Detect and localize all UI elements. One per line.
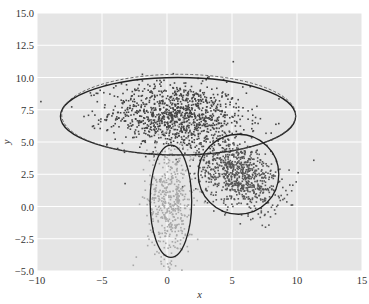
x-tick-label: 5 bbox=[229, 275, 234, 286]
x-tick-label: 0 bbox=[164, 275, 169, 286]
y-tick-label: 15.0 bbox=[16, 8, 34, 19]
y-tick-label: 5.0 bbox=[21, 137, 34, 148]
x-tick-label: 10 bbox=[292, 275, 303, 286]
y-axis-ticks: −5.0−2.50.02.55.07.510.012.515.0 bbox=[15, 8, 34, 277]
x-tick-label: −5 bbox=[96, 275, 107, 286]
y-tick-label: 10.0 bbox=[16, 73, 34, 84]
y-tick-label: 0.0 bbox=[21, 202, 34, 213]
x-axis-ticks: −10−5051015 bbox=[29, 275, 367, 286]
x-tick-label: 15 bbox=[357, 275, 368, 286]
scatter-chart: −10−5051015 −5.0−2.50.02.55.07.510.012.5… bbox=[0, 0, 369, 304]
y-tick-label: 12.5 bbox=[16, 40, 34, 51]
y-tick-label: −2.5 bbox=[15, 234, 34, 245]
y-tick-label: 2.5 bbox=[21, 169, 34, 180]
y-tick-label: 7.5 bbox=[21, 105, 34, 116]
x-axis-label: x bbox=[196, 289, 202, 300]
y-axis-label: y bbox=[1, 139, 12, 145]
y-tick-label: −5.0 bbox=[15, 266, 34, 277]
